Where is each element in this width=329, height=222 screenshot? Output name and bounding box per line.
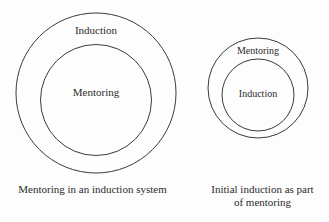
inner-circle-label-left: Mentoring xyxy=(73,86,120,98)
outer-circle-label-right: Mentoring xyxy=(237,45,279,56)
caption-right: Initial induction as part of mentoring xyxy=(196,183,329,208)
inner-circle-left xyxy=(41,45,152,156)
venn-diagram-mentoring-in-induction: Induction Mentoring xyxy=(0,0,193,180)
venn-svg-left: Induction Mentoring xyxy=(0,0,193,180)
figure-root: . Induction Mentoring Mentoring in an in… xyxy=(0,0,329,222)
venn-diagram-initial-induction-in-mentoring: Mentoring Induction xyxy=(200,30,320,150)
venn-svg-right: Mentoring Induction xyxy=(200,30,320,150)
outer-circle-label-left: Induction xyxy=(75,24,118,36)
inner-circle-label-right: Induction xyxy=(239,88,277,99)
caption-left: Mentoring in an induction system xyxy=(0,183,185,196)
